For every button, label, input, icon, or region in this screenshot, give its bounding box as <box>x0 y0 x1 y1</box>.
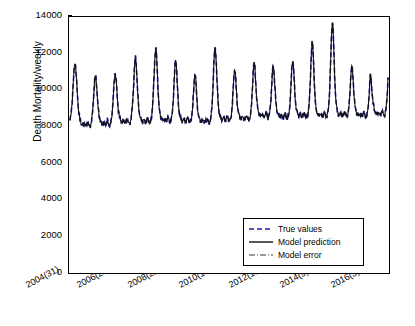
legend-swatch-solid <box>248 237 274 247</box>
legend-swatch-dashed <box>248 224 274 234</box>
y-tick-label: 0 <box>6 267 62 277</box>
chart-figure: Death Mortality/weekly 0 2000 4000 6000 … <box>0 0 415 326</box>
x-tick-label: 2004(31) <box>24 264 61 290</box>
legend-entry-model-error: Model error <box>248 248 359 261</box>
y-tick-label: 4000 <box>6 193 62 203</box>
y-axis-title: Death Mortality/weekly <box>32 0 43 187</box>
legend: True values Model prediction Model error <box>243 218 364 266</box>
legend-swatch-dash-dot <box>248 250 274 260</box>
legend-label: True values <box>278 224 322 234</box>
legend-entry-model-prediction: Model prediction <box>248 235 359 248</box>
y-tick-label: 2000 <box>6 230 62 240</box>
legend-label: Model prediction <box>278 237 340 247</box>
legend-label: Model error <box>278 250 321 260</box>
legend-entry-true-values: True values <box>248 222 359 235</box>
